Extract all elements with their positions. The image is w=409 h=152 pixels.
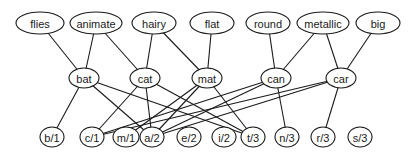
- nodes-layer: fliesanimatehairyflatroundmetallicbigbat…: [16, 12, 400, 147]
- node-label: metallic: [304, 18, 342, 30]
- feature-node-hairy: hairy: [132, 12, 176, 34]
- node-label: bat: [76, 73, 91, 85]
- letter-node-m1: m/1: [113, 127, 139, 147]
- word-node-bat: bat: [69, 68, 99, 88]
- node-label: big: [371, 18, 386, 30]
- node-label: a/2: [144, 132, 159, 144]
- letter-node-e2: e/2: [177, 127, 201, 147]
- node-label: t/3: [247, 132, 259, 144]
- letter-node-b1: b/1: [40, 127, 64, 147]
- node-label: animate: [76, 18, 115, 30]
- node-label: r/3: [317, 132, 330, 144]
- letter-node-n3: n/3: [275, 127, 299, 147]
- node-label: e/2: [181, 132, 196, 144]
- node-label: m/1: [117, 132, 135, 144]
- node-label: hairy: [142, 18, 166, 30]
- node-label: i/2: [218, 132, 230, 144]
- letter-node-s3: s/3: [348, 127, 372, 147]
- letter-node-r3: r/3: [311, 127, 335, 147]
- letter-node-t3: t/3: [241, 127, 265, 147]
- letter-node-c1: c/1: [80, 127, 104, 147]
- node-label: s/3: [353, 132, 368, 144]
- node-label: car: [333, 73, 349, 85]
- word-node-car: car: [326, 68, 356, 88]
- node-label: n/3: [279, 132, 294, 144]
- letter-node-a2: a/2: [140, 127, 164, 147]
- node-label: can: [267, 73, 285, 85]
- feature-node-flat: flat: [190, 12, 234, 34]
- feature-node-big: big: [356, 12, 400, 34]
- node-label: mat: [198, 73, 216, 85]
- node-label: b/1: [44, 132, 59, 144]
- network-diagram: fliesanimatehairyflatroundmetallicbigbat…: [0, 0, 409, 152]
- node-label: round: [254, 18, 282, 30]
- feature-node-flies: flies: [16, 12, 64, 34]
- word-node-cat: cat: [130, 68, 160, 88]
- node-label: flat: [205, 18, 220, 30]
- word-node-mat: mat: [192, 68, 222, 88]
- feature-node-animate: animate: [70, 12, 122, 34]
- feature-node-metallic: metallic: [297, 12, 349, 34]
- node-label: cat: [138, 73, 153, 85]
- node-label: flies: [30, 18, 50, 30]
- word-node-can: can: [261, 68, 291, 88]
- node-label: c/1: [85, 132, 100, 144]
- letter-node-i2: i/2: [212, 127, 236, 147]
- feature-node-round: round: [246, 12, 290, 34]
